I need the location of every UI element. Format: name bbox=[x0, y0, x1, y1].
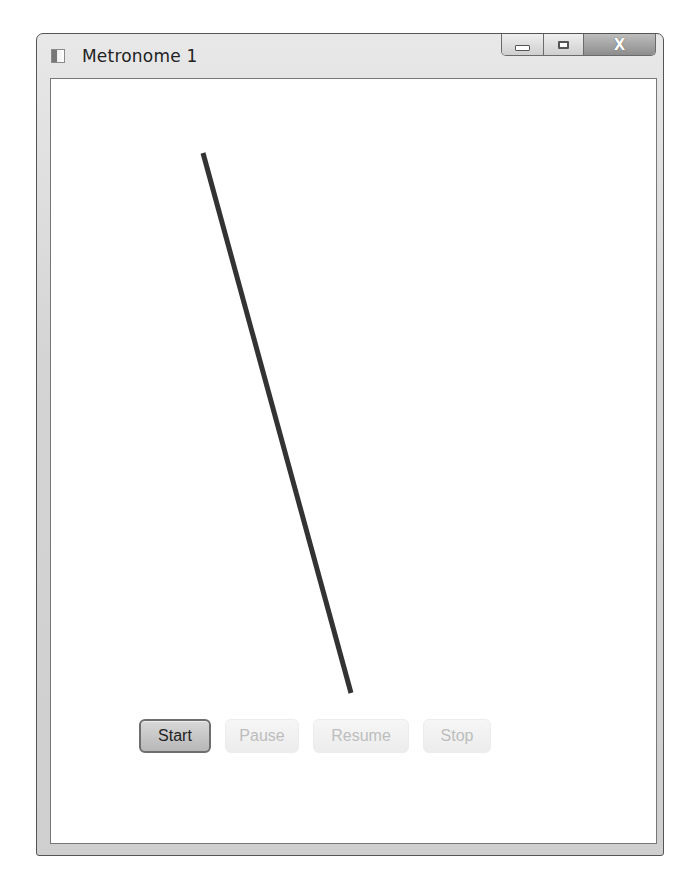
stop-button[interactable]: Stop bbox=[423, 719, 491, 753]
window-title: Metronome 1 bbox=[82, 46, 197, 66]
minimize-icon bbox=[515, 45, 530, 51]
title-bar[interactable]: Metronome 1 X bbox=[37, 34, 663, 78]
maximize-icon bbox=[558, 41, 569, 49]
caption-buttons: X bbox=[501, 34, 656, 56]
pendulum-rod bbox=[203, 153, 351, 693]
close-icon: X bbox=[614, 36, 626, 54]
start-button[interactable]: Start bbox=[139, 719, 211, 753]
resume-button[interactable]: Resume bbox=[313, 719, 409, 753]
metronome-window: Metronome 1 X Start Pause Resume Stop bbox=[36, 33, 664, 856]
metronome-canvas: Start Pause Resume Stop bbox=[50, 78, 657, 844]
minimize-button[interactable] bbox=[502, 34, 544, 55]
pause-button[interactable]: Pause bbox=[225, 719, 299, 753]
close-button[interactable]: X bbox=[584, 34, 655, 55]
maximize-button[interactable] bbox=[544, 34, 584, 55]
app-window-icon[interactable] bbox=[51, 49, 65, 63]
